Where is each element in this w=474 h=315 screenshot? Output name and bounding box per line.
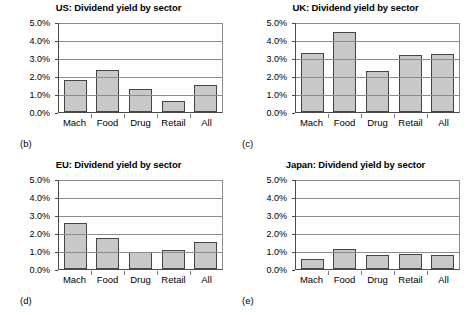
bar-slot	[361, 180, 394, 269]
y-tick-label: 3.0%	[266, 55, 287, 64]
bar-slot	[189, 180, 222, 269]
y-tick-mark	[292, 270, 295, 271]
panel-label-c: (c)	[242, 138, 253, 149]
y-tick-mark	[292, 59, 295, 60]
y-tick-label: 0.0%	[29, 266, 50, 275]
x-axis-labels-us: MachFoodDrugRetailAll	[58, 117, 223, 128]
y-axis-labels-us: 5.0%4.0%3.0%2.0%1.0%0.0%	[0, 23, 54, 113]
x-tick-label: Drug	[124, 117, 157, 128]
gridline	[59, 95, 222, 96]
y-tick-mark	[55, 113, 58, 114]
x-tick-label: All	[427, 117, 460, 128]
y-tick-label: 2.0%	[29, 73, 50, 82]
x-tick-label: Food	[91, 274, 124, 285]
y-tick-mark	[55, 95, 58, 96]
y-tick-label: 1.0%	[29, 91, 50, 100]
bar	[399, 254, 422, 269]
bar-slot	[426, 180, 459, 269]
y-tick-mark	[55, 216, 58, 217]
gridline	[296, 23, 459, 24]
y-tick-label: 5.0%	[29, 19, 50, 28]
y-tick-mark	[292, 180, 295, 181]
gridline	[59, 198, 222, 199]
bar	[399, 55, 422, 112]
bar-slot	[361, 23, 394, 112]
bar	[194, 85, 217, 112]
gridline	[296, 198, 459, 199]
y-tick-label: 5.0%	[29, 176, 50, 185]
bar-slot	[329, 23, 362, 112]
x-axis-labels-japan: MachFoodDrugRetailAll	[295, 274, 460, 285]
y-tick-mark	[55, 270, 58, 271]
y-tick-label: 1.0%	[29, 248, 50, 257]
y-axis-labels-japan: 5.0%4.0%3.0%2.0%1.0%0.0%	[237, 180, 291, 270]
bar-slot	[394, 23, 427, 112]
y-tick-mark	[55, 41, 58, 42]
x-tick-label: Retail	[157, 274, 190, 285]
bar-slot	[189, 23, 222, 112]
y-tick-mark	[292, 41, 295, 42]
x-tick-label: Drug	[361, 117, 394, 128]
gridline	[59, 59, 222, 60]
x-tick-label: All	[190, 117, 223, 128]
y-tick-mark	[55, 23, 58, 24]
bars-us	[59, 23, 222, 112]
y-tick-mark	[55, 234, 58, 235]
y-tick-mark	[55, 252, 58, 253]
chart-title-uk: UK: Dividend yield by sector	[237, 2, 474, 14]
plot-area-eu	[58, 180, 223, 270]
y-tick-label: 3.0%	[266, 212, 287, 221]
y-tick-mark	[292, 234, 295, 235]
gridline	[296, 180, 459, 181]
plot-area-japan	[295, 180, 460, 270]
gridline	[59, 234, 222, 235]
y-tick-label: 2.0%	[266, 73, 287, 82]
panel-label-b: (b)	[20, 138, 32, 149]
x-tick-label: All	[190, 274, 223, 285]
y-tick-label: 3.0%	[29, 212, 50, 221]
panel-label-d: (d)	[20, 295, 32, 306]
chart-title-us: US: Dividend yield by sector	[0, 2, 237, 14]
bar	[431, 54, 454, 113]
bar-slot	[124, 180, 157, 269]
y-tick-mark	[55, 198, 58, 199]
y-tick-label: 4.0%	[266, 37, 287, 46]
x-tick-label: Food	[328, 274, 361, 285]
gridline	[296, 234, 459, 235]
bar-slot	[426, 23, 459, 112]
y-tick-mark	[292, 77, 295, 78]
y-tick-label: 3.0%	[29, 55, 50, 64]
x-tick-label: Mach	[58, 274, 91, 285]
y-tick-label: 0.0%	[266, 109, 287, 118]
x-tick-label: Mach	[295, 117, 328, 128]
bar-slot	[296, 180, 329, 269]
y-tick-label: 2.0%	[266, 230, 287, 239]
gridline	[59, 23, 222, 24]
x-axis-labels-eu: MachFoodDrugRetailAll	[58, 274, 223, 285]
y-tick-label: 1.0%	[266, 91, 287, 100]
y-tick-label: 1.0%	[266, 248, 287, 257]
chart-title-japan: Japan: Dividend yield by sector	[237, 159, 474, 171]
bars-japan	[296, 180, 459, 269]
gridline	[59, 252, 222, 253]
figure-grid: US: Dividend yield by sector 5.0%4.0%3.0…	[0, 0, 474, 315]
bar	[301, 259, 324, 269]
bar	[431, 255, 454, 269]
bar	[64, 223, 87, 269]
gridline	[59, 216, 222, 217]
chart-title-eu: EU: Dividend yield by sector	[0, 159, 237, 171]
bar-slot	[296, 23, 329, 112]
bar	[129, 89, 152, 112]
panel-label-e: (e)	[242, 295, 254, 306]
gridline	[59, 77, 222, 78]
bar	[194, 242, 217, 269]
bar-slot	[59, 180, 92, 269]
gridline	[296, 95, 459, 96]
x-tick-label: Drug	[124, 274, 157, 285]
x-tick-label: Mach	[295, 274, 328, 285]
x-tick-label: Retail	[394, 274, 427, 285]
gridline	[296, 77, 459, 78]
bar-slot	[92, 23, 125, 112]
x-tick-label: Retail	[394, 117, 427, 128]
x-tick-label: All	[427, 274, 460, 285]
